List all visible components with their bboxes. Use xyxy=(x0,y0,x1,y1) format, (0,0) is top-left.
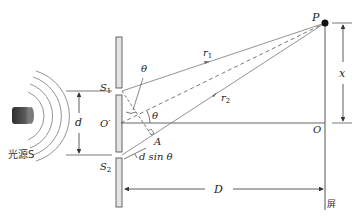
label-D: D xyxy=(213,183,223,196)
theta-pointer xyxy=(133,78,143,110)
ray-r1 xyxy=(122,23,325,91)
point-P xyxy=(322,20,329,27)
theta-arc-top xyxy=(126,112,136,113)
label-theta-mid: θ xyxy=(152,110,158,121)
source-label: 光源S xyxy=(8,148,34,160)
label-O: O xyxy=(313,124,321,135)
label-S2: S2 xyxy=(100,161,111,174)
center-ray-dashed xyxy=(121,23,325,123)
label-A: A xyxy=(153,136,161,147)
label-x: x xyxy=(339,67,346,80)
light-source-icon xyxy=(12,107,34,124)
slit-barrier xyxy=(116,37,122,207)
wavefront-arcs-icon xyxy=(28,71,69,161)
r2-arrow-icon xyxy=(212,92,217,97)
label-P: P xyxy=(311,11,320,24)
label-O-prime: O′ xyxy=(100,118,111,129)
screen-label: 屏 xyxy=(327,199,336,209)
label-dsin-theta: d sin θ xyxy=(139,151,173,162)
ray-r2 xyxy=(122,23,325,155)
label-d: d xyxy=(75,116,82,129)
r1-arrow-icon xyxy=(204,61,210,64)
label-r1: r1 xyxy=(203,47,212,60)
label-r2: r2 xyxy=(221,92,230,105)
label-theta-top: θ xyxy=(141,63,147,74)
double-slit-diagram: 光源S 屏 P r1 r2 S1 S2 θ θ O′ O A xyxy=(0,0,363,217)
label-S1: S1 xyxy=(100,82,111,95)
theta-arc-mid xyxy=(147,111,150,123)
